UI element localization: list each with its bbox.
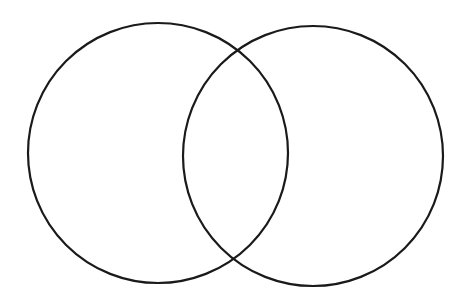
left-circle: [28, 23, 288, 283]
venn-diagram: [0, 0, 467, 296]
venn-diagram-svg: [0, 0, 467, 296]
right-circle: [183, 26, 443, 286]
